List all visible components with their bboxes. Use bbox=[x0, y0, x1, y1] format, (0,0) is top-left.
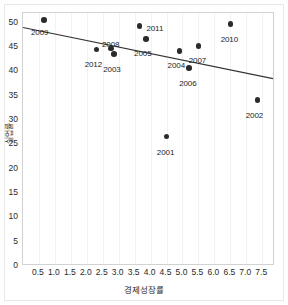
x-tick-5.0: 5.0 bbox=[176, 268, 188, 277]
x-tick-3.5: 3.5 bbox=[128, 268, 140, 277]
data-point-2004[interactable] bbox=[177, 48, 183, 54]
data-point-label-2008: 2008 bbox=[102, 41, 119, 49]
data-point-label-2011: 2011 bbox=[146, 25, 163, 33]
y-tick-5: 5 bbox=[13, 236, 18, 245]
x-tick-6.5: 6.5 bbox=[223, 268, 235, 277]
x-axis-title: 경제성장률 bbox=[0, 283, 288, 295]
x-tick-4.0: 4.0 bbox=[144, 268, 156, 277]
y-tick-40: 40 bbox=[9, 66, 18, 75]
data-point-label-2010: 2010 bbox=[221, 36, 238, 44]
data-point-label-2004: 2004 bbox=[168, 62, 185, 70]
x-tick-1.5: 1.5 bbox=[64, 268, 76, 277]
x-tick-0.5: 0.5 bbox=[32, 268, 44, 277]
data-point-label-2002: 2002 bbox=[246, 112, 263, 120]
y-tick-10: 10 bbox=[9, 212, 18, 221]
data-point-2010[interactable] bbox=[228, 21, 234, 27]
data-point-label-2009: 2009 bbox=[31, 29, 48, 37]
y-tick-20: 20 bbox=[9, 163, 18, 172]
x-tick-2.0: 2.0 bbox=[80, 268, 92, 277]
data-point-2011[interactable] bbox=[137, 23, 143, 29]
x-tick-1.0: 1.0 bbox=[48, 268, 60, 277]
scatter-plot-figure: 05101520253035404550 실업률 200920122008200… bbox=[0, 0, 288, 305]
x-tick-7.0: 7.0 bbox=[239, 268, 251, 277]
data-point-2007[interactable] bbox=[196, 43, 202, 49]
data-point-2006[interactable] bbox=[186, 65, 192, 71]
x-tick-4.5: 4.5 bbox=[160, 268, 172, 277]
y-tick-15: 15 bbox=[9, 188, 18, 197]
y-tick-0: 0 bbox=[13, 261, 18, 270]
data-point-label-2001: 2001 bbox=[157, 149, 174, 157]
x-tick-2.5: 2.5 bbox=[96, 268, 108, 277]
data-point-label-2005: 2005 bbox=[134, 50, 151, 58]
data-point-label-2012: 2012 bbox=[85, 61, 102, 69]
x-tick-7.5: 7.5 bbox=[255, 268, 267, 277]
data-point-label-2006: 2006 bbox=[179, 80, 196, 88]
y-axis-title: 실업률 bbox=[3, 114, 14, 154]
x-tick-3.0: 3.0 bbox=[112, 268, 124, 277]
data-point-label-2003: 2003 bbox=[103, 66, 120, 74]
x-tick-6.0: 6.0 bbox=[207, 268, 219, 277]
y-tick-45: 45 bbox=[9, 42, 18, 51]
data-point-2003[interactable] bbox=[111, 51, 117, 57]
y-tick-35: 35 bbox=[9, 90, 18, 99]
x-tick-5.5: 5.5 bbox=[192, 268, 204, 277]
data-point-2005[interactable] bbox=[143, 36, 149, 42]
data-point-2002[interactable] bbox=[255, 97, 261, 103]
x-axis-tick-labels: 0.51.01.52.02.53.03.54.04.55.05.56.06.57… bbox=[22, 268, 274, 280]
data-point-2009[interactable] bbox=[41, 17, 47, 23]
data-point-label-2007: 2007 bbox=[189, 57, 206, 65]
y-tick-50: 50 bbox=[9, 17, 18, 26]
plot-area: 2009201220082003201120052004200720062010… bbox=[22, 12, 274, 265]
